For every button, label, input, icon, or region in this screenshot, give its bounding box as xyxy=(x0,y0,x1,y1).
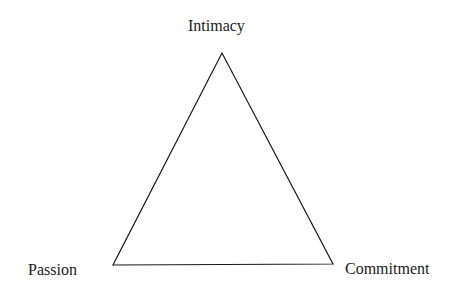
vertex-label-commitment: Commitment xyxy=(345,260,429,278)
triangle-shape xyxy=(0,0,467,296)
vertex-label-intimacy: Intimacy xyxy=(188,17,245,35)
vertex-label-passion: Passion xyxy=(28,261,77,279)
triangle-outline xyxy=(113,53,333,265)
triangle-diagram: Intimacy Passion Commitment xyxy=(0,0,467,296)
